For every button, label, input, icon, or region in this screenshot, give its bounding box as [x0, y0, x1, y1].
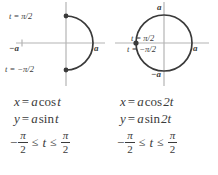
label-t-pi-over-2-top: t = π/2 [9, 12, 32, 21]
label-axis-a-top: a [157, 3, 162, 12]
eq-x-argument: t [57, 94, 61, 109]
eq-y-equals: = [20, 111, 31, 126]
eq-y-argument: 2t [161, 111, 171, 126]
fraction-denominator: 2 [61, 143, 71, 155]
eq-y-function: sin [145, 111, 160, 126]
equations-left: x=a cos t y=a sin t − π 2 ≤ t ≤ π 2 [0, 90, 109, 175]
label-t-pi-over-2: t = π/2 [131, 34, 154, 43]
figure-semicircle: t = π/2 t = −π/2 −a a [0, 0, 109, 88]
eq-y-lhs: y [120, 111, 126, 126]
fraction-numerator: π [125, 130, 135, 142]
relation-left: ≤ [135, 135, 150, 150]
eq-x-coef: a [137, 94, 144, 109]
figure-full-circle: a −a a t = π/2 t = −π/2 [109, 0, 218, 88]
eq-x-lhs: x [120, 94, 126, 109]
fraction-denominator: 2 [125, 143, 135, 155]
eq-y-equals: = [126, 111, 137, 126]
domain-leading-minus: − [117, 135, 125, 151]
relation-left: ≤ [28, 135, 43, 150]
domain-inequality-right: − π 2 ≤ t ≤ π 2 [117, 130, 177, 155]
domain-leading-minus: − [10, 135, 18, 151]
label-axis-a-right: a [94, 44, 99, 53]
fraction-pi-over-two-right: π 2 [168, 130, 178, 155]
equations-right: x=a cos 2t y=a sin 2t − π 2 ≤ t ≤ π 2 [109, 90, 218, 175]
eq-y-coef: a [137, 111, 144, 126]
equation-x-left: x=a cos t [14, 94, 61, 110]
fraction-numerator: π [168, 130, 178, 142]
fraction-denominator: 2 [168, 143, 178, 155]
fraction-pi-over-two-right: π 2 [61, 130, 71, 155]
eq-y-coef: a [31, 111, 38, 126]
label-axis-neg-a: −a [9, 44, 19, 53]
panel-right: a −a a t = π/2 t = −π/2 x=a cos 2t y=a s… [109, 0, 218, 175]
eq-x-coef: a [31, 94, 38, 109]
endpoint-dot-bottom [64, 68, 69, 73]
fraction-denominator: 2 [18, 143, 28, 155]
eq-x-lhs: x [14, 94, 20, 109]
eq-y-function: sin [39, 111, 54, 126]
fraction-numerator: π [18, 130, 28, 142]
eq-x-argument: 2t [163, 94, 173, 109]
eq-y-lhs: y [14, 111, 20, 126]
eq-x-function: cos [145, 94, 162, 109]
label-t-neg-pi-over-2-bottom: t = −π/2 [5, 65, 34, 74]
fraction-numerator: π [61, 130, 71, 142]
endpoint-dot-top [64, 14, 69, 19]
equation-y-left: y=a sin t [14, 111, 59, 127]
relation-right: ≤ [153, 135, 168, 150]
fraction-pi-over-two-left: π 2 [18, 130, 28, 155]
equation-y-right: y=a sin 2t [120, 111, 171, 127]
eq-x-equals: = [126, 94, 137, 109]
label-t-neg-pi-over-2: t = −π/2 [127, 45, 156, 54]
equation-x-right: x=a cos 2t [120, 94, 173, 110]
label-axis-a-right: a [193, 44, 198, 53]
label-axis-neg-a-bottom: −a [151, 70, 161, 79]
eq-y-argument: t [55, 111, 59, 126]
fraction-pi-over-two-left: π 2 [125, 130, 135, 155]
parametric-curves-figure: t = π/2 t = −π/2 −a a x=a cos t y=a sin … [0, 0, 218, 175]
eq-x-equals: = [20, 94, 31, 109]
domain-inequality-left: − π 2 ≤ t ≤ π 2 [10, 130, 70, 155]
relation-right: ≤ [46, 135, 61, 150]
eq-x-function: cos [39, 94, 56, 109]
panel-left: t = π/2 t = −π/2 −a a x=a cos t y=a sin … [0, 0, 109, 175]
